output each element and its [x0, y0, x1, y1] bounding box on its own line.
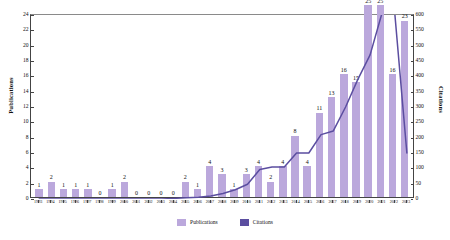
x-axis-tick-mark	[222, 200, 223, 203]
bar-cell: 1	[33, 15, 45, 197]
bar-cell: 16	[338, 15, 350, 197]
x-axis-tick-mark	[369, 200, 370, 203]
y-axis-right-tick-label: 500	[416, 43, 424, 49]
bar-value-label: 0	[94, 190, 106, 196]
bar-value-label: 11	[313, 105, 325, 111]
bar-cell: 2	[45, 15, 57, 197]
y-axis-left-tick-label: 10	[23, 120, 29, 126]
bar-series-publications: 121110120000214313424841113161525251623	[31, 15, 413, 197]
x-axis-tick-mark	[75, 200, 76, 203]
x-axis-labels: 1993199419951996199719981999200020012002…	[30, 200, 414, 212]
bar	[182, 182, 190, 197]
y-axis-left-tick-label: 12	[23, 104, 29, 110]
bar	[364, 5, 372, 197]
bar-cell: 25	[362, 15, 374, 197]
bar-cell: 0	[167, 15, 179, 197]
legend-item: Publications	[177, 219, 218, 226]
x-axis-tick-mark	[381, 200, 382, 203]
bar-cell: 0	[131, 15, 143, 197]
bar-value-label: 16	[338, 67, 350, 73]
x-axis-tick-mark	[136, 200, 137, 203]
bar	[108, 189, 116, 197]
bar-value-label: 2	[265, 174, 277, 180]
bar-value-label: 2	[45, 174, 57, 180]
y-axis-right-tick-label: 100	[416, 166, 424, 172]
bar	[255, 166, 263, 197]
bar	[401, 21, 409, 197]
y-axis-left-tick-label: 6	[26, 150, 29, 156]
x-axis-tick-mark	[259, 200, 260, 203]
bar-value-label: 0	[155, 190, 167, 196]
x-axis-tick-mark	[197, 200, 198, 203]
bar-cell: 0	[94, 15, 106, 197]
bar-cell: 3	[216, 15, 228, 197]
x-axis-tick-mark	[99, 200, 100, 203]
bar-value-label: 2	[118, 174, 130, 180]
x-axis-tick-mark	[210, 200, 211, 203]
y-axis-right-tick-label: 350	[416, 89, 424, 95]
x-axis-tick-mark	[308, 200, 309, 203]
bar	[35, 189, 43, 197]
bar-value-label: 15	[350, 75, 362, 81]
y-axis-right-tick-label: 600	[416, 12, 424, 18]
bar-cell: 1	[191, 15, 203, 197]
bar	[279, 166, 287, 197]
y-axis-left-tick-label: 14	[23, 89, 29, 95]
bar	[352, 82, 360, 197]
bar	[60, 189, 68, 197]
bar	[377, 5, 385, 197]
bar	[267, 182, 275, 197]
y-axis-right-tick-label: 200	[416, 135, 424, 141]
bar	[316, 113, 324, 197]
bar-value-label: 1	[106, 182, 118, 188]
bar-value-label: 4	[277, 159, 289, 165]
bar	[340, 74, 348, 197]
bar-value-label: 1	[33, 182, 45, 188]
bar-cell: 0	[155, 15, 167, 197]
bar-cell: 4	[277, 15, 289, 197]
x-axis-tick-mark	[271, 200, 272, 203]
y-axis-left-tick-label: 0	[26, 196, 29, 202]
x-axis-tick-mark	[332, 200, 333, 203]
y-axis-right-tick-label: 50	[416, 181, 422, 187]
x-axis-tick-mark	[234, 200, 235, 203]
bar-cell: 4	[252, 15, 264, 197]
bar-cell: 1	[57, 15, 69, 197]
bar-cell: 3	[240, 15, 252, 197]
x-axis-tick-mark	[296, 200, 297, 203]
x-axis-tick-mark	[38, 200, 39, 203]
bar-cell: 4	[204, 15, 216, 197]
bar-value-label: 1	[82, 182, 94, 188]
bar	[84, 189, 92, 197]
x-axis-tick-mark	[124, 200, 125, 203]
bar	[389, 74, 397, 197]
y-axis-right-title: Citations	[438, 70, 445, 130]
y-axis-left-tick-label: 16	[23, 74, 29, 80]
x-axis-tick-mark	[87, 200, 88, 203]
y-axis-left-tick-label: 8	[26, 135, 29, 141]
bar-value-label: 0	[143, 190, 155, 196]
bar	[206, 166, 214, 197]
bar-value-label: 25	[374, 0, 386, 4]
bar-value-label: 1	[70, 182, 82, 188]
y-axis-right-tick-label: 450	[416, 58, 424, 64]
y-axis-right-tick-label: 400	[416, 74, 424, 80]
x-axis-tick-mark	[148, 200, 149, 203]
y-axis-right-tick-label: 0	[416, 196, 419, 202]
y-axis-right-tick-label: 150	[416, 150, 424, 156]
y-axis-left-tick-label: 22	[23, 28, 29, 34]
x-axis-tick-mark	[394, 200, 395, 203]
x-axis-tick-mark	[345, 200, 346, 203]
bar-value-label: 2	[179, 174, 191, 180]
x-axis-tick-mark	[283, 200, 284, 203]
bar-value-label: 4	[252, 159, 264, 165]
bar-value-label: 1	[191, 182, 203, 188]
legend-swatch	[240, 219, 249, 226]
bar-cell: 8	[289, 15, 301, 197]
bar	[230, 189, 238, 197]
bar-value-label: 16	[386, 67, 398, 73]
bar-cell: 2	[118, 15, 130, 197]
bar-cell: 1	[70, 15, 82, 197]
bar-cell: 11	[313, 15, 325, 197]
y-axis-left-tick-label: 20	[23, 43, 29, 49]
